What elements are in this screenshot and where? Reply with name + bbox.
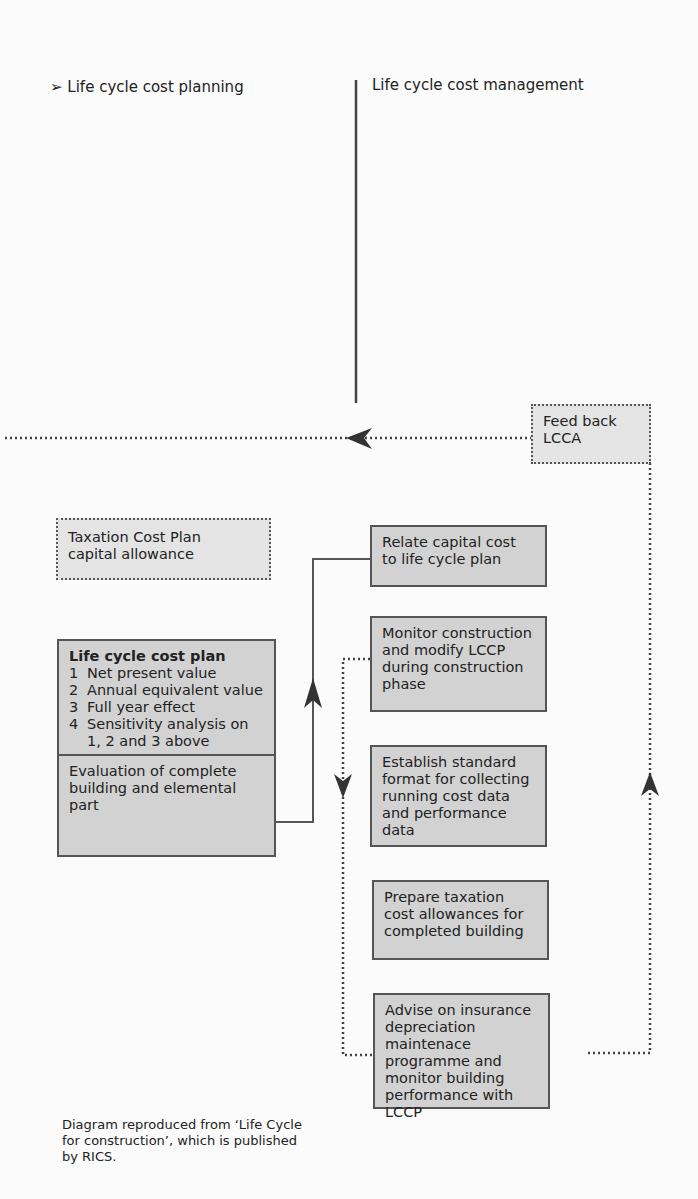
box-text: Establish standard format for collecting… — [382, 754, 535, 839]
arrow-left-icon — [346, 428, 372, 449]
box-text: LCCA — [543, 430, 639, 447]
arrow-up-icon — [641, 772, 659, 796]
list-number: 4 — [69, 716, 87, 750]
list-text: Full year effect — [87, 699, 264, 716]
list-number: 1 — [69, 665, 87, 682]
heading-life-cycle-cost-management: Life cycle cost management — [372, 76, 584, 94]
list-text: Annual equivalent value — [87, 682, 264, 699]
list-item: 4 Sensitivity analysis on 1, 2 and 3 abo… — [69, 716, 264, 750]
feedback-lcca-box: Feed back LCCA — [531, 404, 651, 464]
dotted-right-loop — [588, 462, 650, 1053]
box-text: Relate capital cost to life cycle plan — [382, 534, 535, 568]
lccp-title: Life cycle cost plan — [69, 648, 264, 665]
solid-connector — [276, 559, 370, 822]
box-divider — [59, 754, 274, 756]
advise-insurance-box: Advise on insurance depreciation mainten… — [373, 993, 550, 1109]
box-text: Monitor construction and modify LCCP dur… — [382, 625, 535, 693]
list-item: 2 Annual equivalent value — [69, 682, 264, 699]
box-text: Prepare taxation cost allowances for com… — [384, 889, 537, 940]
box-text: Feed back — [543, 413, 639, 430]
monitor-construction-box: Monitor construction and modify LCCP dur… — [370, 616, 547, 712]
connector-lines — [0, 0, 698, 1199]
life-cycle-cost-plan-box: Life cycle cost plan 1 Net present value… — [57, 639, 276, 857]
evaluation-text: Evaluation of complete building and elem… — [69, 763, 264, 814]
list-text: Net present value — [87, 665, 264, 682]
box-text: Advise on insurance depreciation mainten… — [385, 1002, 538, 1121]
establish-standard-format-box: Establish standard format for collecting… — [370, 745, 547, 847]
list-number: 3 — [69, 699, 87, 716]
list-number: 2 — [69, 682, 87, 699]
box-text: Taxation Cost Plan — [68, 529, 259, 546]
taxation-cost-plan-box: Taxation Cost Plan capital allowance — [56, 518, 271, 580]
diagram-caption: Diagram reproduced from ‘Life Cycle for … — [62, 1117, 302, 1165]
list-text: Sensitivity analysis on 1, 2 and 3 above — [87, 716, 264, 750]
dotted-left-loop — [343, 659, 374, 1055]
relate-capital-cost-box: Relate capital cost to life cycle plan — [370, 525, 547, 587]
list-item: 3 Full year effect — [69, 699, 264, 716]
heading-life-cycle-cost-planning: ➢ Life cycle cost planning — [50, 78, 244, 96]
prepare-taxation-box: Prepare taxation cost allowances for com… — [372, 880, 549, 960]
list-item: 1 Net present value — [69, 665, 264, 682]
box-text: capital allowance — [68, 546, 259, 563]
